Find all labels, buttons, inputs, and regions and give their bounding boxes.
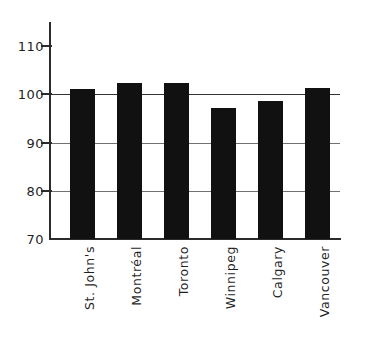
bar-winnipeg [211, 108, 236, 239]
bar-st-johns [70, 89, 95, 239]
bar-toronto [164, 83, 189, 239]
x-tick-label-vancouver: Vancouver [317, 246, 332, 341]
bar-montreal [117, 83, 142, 239]
bar-vancouver [305, 88, 330, 239]
x-axis-labels: St. John's Montréal Toronto Winnipeg Cal… [0, 246, 370, 341]
x-tick-label-toronto: Toronto [176, 246, 191, 341]
x-tick-label-montreal: Montréal [129, 246, 144, 341]
x-tick-label-st-johns: St. John's [82, 246, 97, 341]
bars-layer [0, 22, 370, 239]
x-tick-label-winnipeg: Winnipeg [223, 246, 238, 341]
x-tick-label-calgary: Calgary [270, 246, 285, 341]
bar-calgary [258, 101, 283, 239]
bar-chart: 110 100 90 80 70 St. John's Montréal Tor… [0, 0, 370, 341]
